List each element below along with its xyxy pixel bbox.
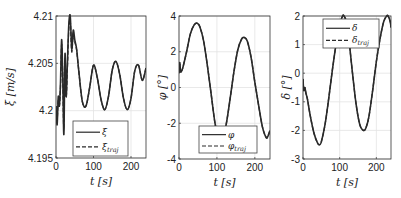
y-axis-label-phi: φ [°] [156,74,169,100]
panel-xi-dot: 01002004.1954.24.2054.21t [s]ξ̇ [m/s]ξ̇ξ… [4,11,146,189]
y-tick-label: -2 [167,118,176,129]
x-axis-label: t [s] [213,176,236,189]
panel-phi: 0100200-4-2024t [s]φ [°]φφtraj [156,11,270,190]
y-tick-label: 4.195 [28,153,53,164]
y-tick-label: 4 [170,11,176,22]
y-tick-label: -2 [291,125,300,136]
legend-entry-actual: δ [352,23,357,33]
x-axis-label: t [s] [336,176,359,189]
panel-delta: 0100200-3-2-1012t [s]δ [°]δδtraj [280,11,391,190]
x-tick-label: 0 [176,162,182,173]
y-tick-label: 4.2 [39,105,53,116]
y-tick-label: -3 [291,154,300,165]
legend: ξ̇ξ̇traj [73,121,128,156]
x-tick-label: 100 [331,162,348,173]
y-tick-label: 1 [294,39,300,50]
legend-entry-actual: φ [228,130,235,140]
y-tick-label: 2 [294,11,300,22]
legend: φφtraj [199,126,257,153]
y-tick-label: 0 [294,68,300,79]
y-tick-label: 0 [170,82,176,93]
y-tick-label: 4.205 [28,58,53,69]
y-axis-label-delta: δ [°] [280,75,293,100]
figure: 01002004.1954.24.2054.21t [s]ξ̇ [m/s]ξ̇ξ… [0,0,401,198]
y-axis-label-xi-dot: ξ̇ [m/s] [4,67,17,106]
y-tick-label: -4 [167,154,176,165]
x-tick-label: 200 [368,162,385,173]
x-tick-label: 0 [53,161,59,172]
x-tick-label: 100 [209,162,226,173]
x-tick-label: 100 [85,161,102,172]
y-tick-label: 4.21 [34,11,54,22]
x-tick-label: 200 [123,161,140,172]
x-tick-label: 200 [246,162,263,173]
x-tick-label: 0 [300,162,306,173]
legend: δδtraj [323,19,379,48]
y-tick-label: 2 [170,46,176,57]
x-axis-label: t [s] [90,175,113,188]
